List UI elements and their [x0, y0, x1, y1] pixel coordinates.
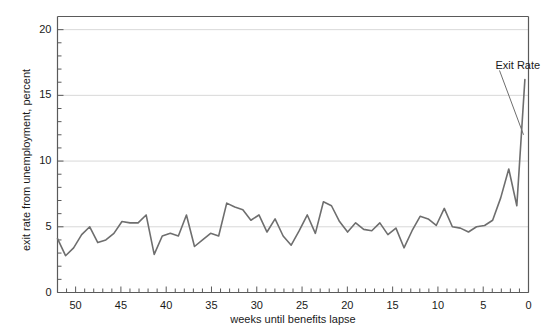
- x-tick-label-45: 45: [108, 299, 134, 311]
- y-tick-label-15: 15: [30, 88, 52, 100]
- y-tick-label-5: 5: [30, 220, 52, 232]
- exit-rate-line: [58, 80, 525, 256]
- grid-lines: [58, 30, 529, 227]
- y-tick-label-0: 0: [30, 286, 52, 298]
- x-tick-label-40: 40: [153, 299, 179, 311]
- exit-rate-annotation: Exit Rate: [496, 59, 541, 71]
- x-tick-label-35: 35: [198, 299, 224, 311]
- x-tick-label-20: 20: [334, 299, 360, 311]
- x-tick-label-15: 15: [380, 299, 406, 311]
- x-tick-label-50: 50: [63, 299, 89, 311]
- x-axis-label: weeks until benefits lapse: [57, 313, 529, 325]
- y-tick-label-10: 10: [30, 154, 52, 166]
- x-tick-label-10: 10: [425, 299, 451, 311]
- x-tick-label-25: 25: [289, 299, 315, 311]
- x-tick-label-5: 5: [470, 299, 496, 311]
- x-tick-label-30: 30: [244, 299, 270, 311]
- chart-plot-area: [0, 0, 554, 336]
- annotation-leader-line: [500, 70, 524, 134]
- x-tick-label-0: 0: [516, 299, 542, 311]
- exit-rate-chart: exit rate from unemployment, percent wee…: [0, 0, 554, 336]
- y-tick-label-20: 20: [30, 23, 52, 35]
- plot-frame: [58, 17, 529, 293]
